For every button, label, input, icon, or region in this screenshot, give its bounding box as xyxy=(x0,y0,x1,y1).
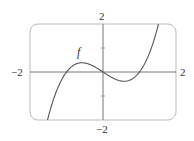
x-min-label: −2 xyxy=(11,67,23,78)
x-max-label: 2 xyxy=(180,67,186,78)
y-min-label: −2 xyxy=(96,124,108,135)
y-max-label: 2 xyxy=(99,11,105,22)
cubic-function-chart xyxy=(0,0,194,141)
function-f-label: f xyxy=(77,46,80,58)
